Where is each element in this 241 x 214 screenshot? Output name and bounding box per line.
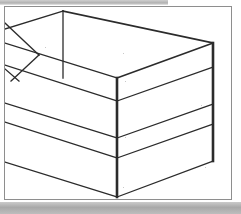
scan-speck: [201, 105, 202, 106]
shelf-lower-left: [5, 103, 117, 138]
scan-speck: [45, 47, 46, 48]
base-lower-left: [5, 162, 117, 197]
isometric-box-drawing: [5, 7, 231, 199]
shelf-lower-right: [117, 104, 213, 138]
scan-edge-bottom: [0, 202, 241, 214]
scan-speck: [123, 53, 124, 54]
scan-speck: [125, 137, 126, 138]
top-front-left-edge: [5, 43, 117, 78]
scanned-page: [0, 0, 241, 214]
base-upper-right: [117, 124, 213, 158]
corner-diagonal-upper: [5, 23, 39, 55]
scan-speck: [205, 167, 206, 168]
base-upper-left: [5, 122, 117, 158]
top-edge-left: [5, 11, 63, 29]
drawing-line-group: [5, 11, 213, 197]
base-lower-right: [117, 161, 213, 197]
scan-speck: [123, 187, 124, 188]
top-edge-right: [63, 11, 213, 43]
scan-speck: [125, 81, 126, 82]
figure-frame: [4, 6, 232, 200]
